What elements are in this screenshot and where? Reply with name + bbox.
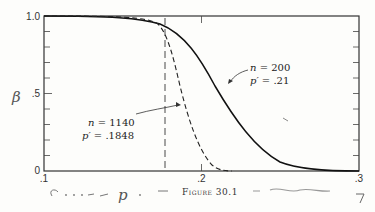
handwritten-dash: [88, 194, 108, 196]
y-tick-label-05: .5: [32, 88, 41, 99]
handwritten-mark: [356, 194, 364, 203]
series-n1140-dashed: [44, 16, 232, 171]
x-tick-label-02: .2: [197, 173, 206, 184]
arrowhead-icon: [228, 79, 233, 84]
handwritten-mark: [51, 190, 58, 196]
figure-caption: Figure 30.1: [182, 187, 238, 197]
series-n200-solid: [44, 16, 359, 171]
annotation-n200-line1: n = 200: [250, 62, 290, 73]
annotation-n1140-arrow: [136, 105, 178, 114]
x-tick-label-01: .1: [40, 173, 49, 184]
y-tick-label-1: 1.0: [26, 11, 40, 22]
handwritten-p: p: [118, 186, 128, 204]
plot-frame: [44, 16, 359, 171]
handwritten-squiggle: [253, 189, 330, 191]
annotation-n200-line2: p′ = .21: [250, 75, 289, 86]
y-right-ticks: [353, 32, 359, 156]
oc-curve-chart: 1.0 .5 0 .1 .2 .3 n = 200 p′ = .21 n = 1…: [0, 0, 375, 212]
annotation-n1140-line1: n = 1140: [88, 117, 135, 128]
handwritten-dot: [139, 194, 141, 196]
y-minor-ticks: [44, 32, 52, 156]
y-axis-symbol-beta: β: [11, 88, 21, 106]
x-tick-label-03: .3: [355, 173, 364, 184]
annotation-n200-arrow: [230, 70, 248, 82]
arrowhead-icon: [176, 102, 181, 107]
annotation-n1140-line2: p′ = .1848: [82, 130, 134, 141]
handwritten-dots: [65, 194, 83, 196]
stray-mark: [283, 118, 288, 121]
